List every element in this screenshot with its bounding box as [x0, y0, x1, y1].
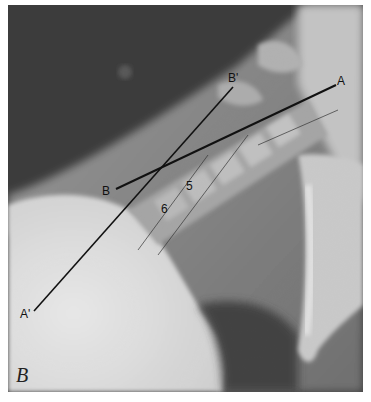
label-a-prime: A' — [20, 308, 30, 320]
film-grain — [8, 5, 363, 392]
vertebra-label-6: 6 — [161, 203, 168, 215]
label-a: A — [337, 75, 345, 87]
label-b-prime: B' — [228, 72, 238, 84]
xray-image — [8, 5, 363, 392]
label-b: B — [102, 185, 110, 197]
vertebra-label-5: 5 — [186, 180, 193, 192]
panel-label: B — [16, 365, 28, 385]
xray-figure: A A' B B' 5 6 B — [8, 5, 363, 392]
